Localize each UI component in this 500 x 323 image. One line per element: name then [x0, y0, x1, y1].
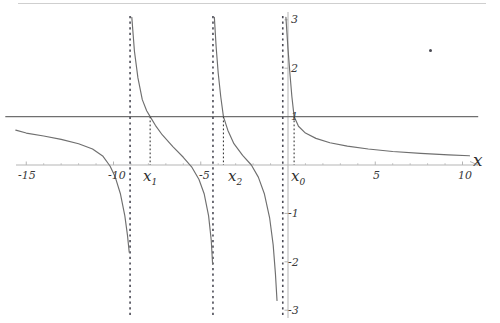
y-tick-label: 2: [291, 63, 298, 74]
solution-marker-x1-subscript: 1: [151, 177, 157, 187]
x-tick-label: -5: [199, 170, 210, 181]
y-tick-label: -2: [288, 257, 299, 268]
y-tick-label: 3: [291, 14, 298, 25]
curve-branch-0: [16, 130, 129, 252]
x-tick-label: 10: [458, 170, 472, 181]
y-tick-label: -1: [288, 208, 299, 219]
x-tick-label: -15: [18, 170, 36, 181]
curve-branch-2: [214, 17, 277, 300]
solution-marker-x1: x1: [143, 169, 157, 187]
curve-branch-1: [132, 17, 213, 264]
stray-speck: [429, 49, 432, 52]
x-tick-label: -10: [108, 170, 126, 181]
x-axis-label: x: [473, 152, 483, 169]
solution-marker-x2-subscript: 2: [236, 177, 242, 187]
solution-marker-x0: x0: [291, 169, 305, 187]
curve-branch-3: [286, 17, 470, 155]
y-tick-label: 1: [291, 111, 298, 122]
solution-marker-x2: x2: [228, 169, 242, 187]
x-tick-label: 5: [373, 170, 380, 181]
y-tick-label: -3: [288, 305, 299, 316]
plot-canvas: [0, 0, 500, 323]
chart-figure: -15 -10 -5 5 10 3 2 1 -1 -2 -3 x1 x2 x0 …: [0, 0, 500, 323]
solution-marker-x0-subscript: 0: [299, 177, 305, 187]
